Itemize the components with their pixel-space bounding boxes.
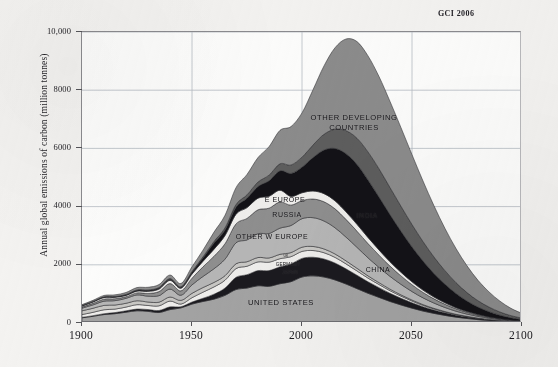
y-tick-mark xyxy=(76,147,82,148)
band-label-japan: JAPAN xyxy=(282,270,297,275)
y-tick-mark xyxy=(76,89,82,90)
band-label-other-w-europe: OTHER W EUROPE xyxy=(236,233,308,240)
stacked-area-chart xyxy=(82,32,521,322)
area-series-group xyxy=(82,39,521,322)
x-tick-mark xyxy=(411,322,412,326)
band-label-uk: UK xyxy=(283,254,288,258)
x-tick-label: 1950 xyxy=(161,329,221,341)
x-tick-label: 2050 xyxy=(381,329,441,341)
x-tick-mark xyxy=(301,322,302,326)
band-label-india: INDIA xyxy=(356,212,377,219)
y-tick-label: 2000 xyxy=(19,258,71,268)
band-label-russia: RUSSIA xyxy=(272,211,301,218)
figure-page: GCI 2006 Annual global emissions of carb… xyxy=(0,0,558,367)
y-tick-label: 6000 xyxy=(19,142,71,152)
band-label-e-europe: E EUROPE xyxy=(265,196,306,203)
x-tick-label: 2100 xyxy=(491,329,551,341)
x-tick-mark xyxy=(191,322,192,326)
credit-label: GCI 2006 xyxy=(438,9,474,18)
plot-area xyxy=(81,31,521,322)
y-tick-mark xyxy=(76,206,82,207)
x-tick-label: 1900 xyxy=(51,329,111,341)
x-tick-mark xyxy=(81,322,82,326)
band-label-other-developing: OTHER DEVELOPING xyxy=(311,113,398,122)
band-label-countries: COUNTRIES xyxy=(329,123,379,132)
y-tick-label: 4000 xyxy=(19,200,71,210)
x-tick-label: 2000 xyxy=(271,329,331,341)
y-tick-label: 0 xyxy=(19,317,71,327)
y-tick-mark xyxy=(76,264,82,265)
y-tick-label: 10,000 xyxy=(19,26,71,36)
band-label-china: CHINA xyxy=(366,266,391,273)
band-label-germany: GERMANY xyxy=(276,262,301,267)
band-label-united-states: UNITED STATES xyxy=(248,298,314,307)
y-tick-mark xyxy=(76,31,82,32)
y-tick-label: 8000 xyxy=(19,84,71,94)
x-tick-mark xyxy=(521,322,522,326)
